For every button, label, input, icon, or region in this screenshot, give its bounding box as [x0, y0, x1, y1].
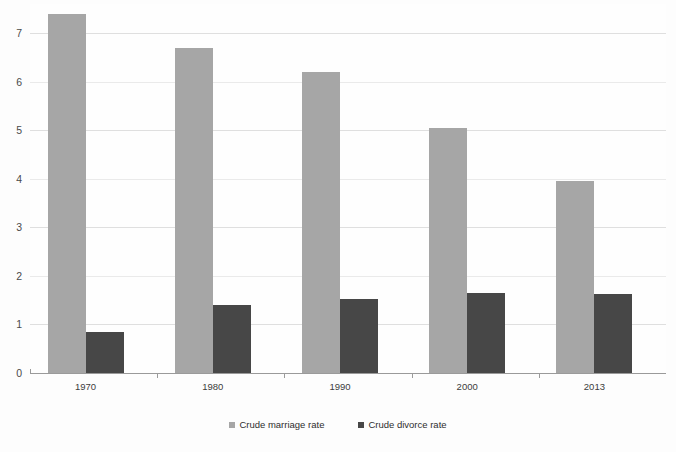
legend-swatch-icon: [358, 422, 364, 428]
bar-marriage-1970: [48, 14, 86, 373]
bar-marriage-2000: [429, 128, 467, 373]
x-axis-line: [30, 373, 666, 374]
legend-label: Crude marriage rate: [239, 419, 324, 430]
x-axis-tick-mark: [157, 373, 158, 378]
x-axis-tick-mark: [539, 373, 540, 378]
bar-marriage-1990: [302, 72, 340, 373]
x-axis-tick-label: 2000: [457, 381, 478, 392]
bar-divorce-1990: [340, 299, 378, 373]
bar-divorce-1970: [86, 332, 124, 373]
y-axis-tick-label: 2: [16, 271, 22, 282]
chart-page: 01234567 19701980199020002013 Crude marr…: [0, 0, 676, 452]
bar-divorce-2013: [594, 294, 632, 373]
x-axis-tick-label: 2013: [584, 381, 605, 392]
bar-divorce-2000: [467, 293, 505, 373]
y-axis-origin-tick: [30, 369, 31, 374]
y-axis-tick-label: 3: [16, 222, 22, 233]
legend-item-divorce[interactable]: Crude divorce rate: [358, 419, 446, 430]
x-axis-tick-label: 1980: [202, 381, 223, 392]
y-axis-tick-label: 0: [16, 368, 22, 379]
y-axis-tick-label: 6: [16, 76, 22, 87]
y-axis-tick-label: 1: [16, 319, 22, 330]
bar-marriage-1980: [175, 48, 213, 373]
y-axis-tick-label: 4: [16, 174, 22, 185]
legend-item-marriage[interactable]: Crude marriage rate: [229, 419, 324, 430]
bar-divorce-1980: [213, 305, 251, 373]
gridline: [30, 82, 666, 83]
legend-swatch-icon: [229, 422, 235, 428]
x-axis-tick-mark: [412, 373, 413, 378]
plot-area: 01234567: [30, 4, 666, 373]
bar-marriage-2013: [556, 181, 594, 373]
x-axis-tick-label: 1970: [75, 381, 96, 392]
gridline: [30, 179, 666, 180]
y-axis-tick-label: 7: [16, 28, 22, 39]
chart-legend: Crude marriage rateCrude divorce rate: [0, 419, 676, 430]
legend-label: Crude divorce rate: [368, 419, 446, 430]
y-axis-tick-label: 5: [16, 125, 22, 136]
x-axis-tick-label: 1990: [329, 381, 350, 392]
gridline: [30, 130, 666, 131]
x-axis-tick-mark: [284, 373, 285, 378]
gridline: [30, 33, 666, 34]
